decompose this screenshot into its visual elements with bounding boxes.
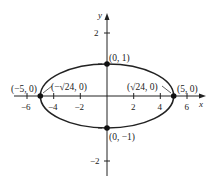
y-axis-arrow-icon [105,13,110,20]
focus-label: (√24, 0) [127,82,158,93]
covertex-point-bottom [104,125,110,131]
vertex-point-right [171,93,177,99]
y-axis-label: y [97,10,102,20]
x-tick-label: 4 [158,102,163,112]
x-axis-arrow-icon [199,94,206,99]
focus-leader-right [162,86,171,93]
point-label: (0, −1) [109,132,135,143]
point-label: (0, 1) [109,53,130,64]
x-tick-label: −6 [21,102,31,112]
x-axis-label: x [198,99,203,109]
y-tick-label: −2 [90,156,100,166]
x-tick-label: −4 [48,102,58,112]
vertex-point-left [38,93,44,99]
point-label: (−5, 0) [11,84,37,95]
focus-label: (−√24, 0) [51,82,87,93]
point-label: (5, 0) [177,84,198,95]
x-tick-label: 6 [185,102,190,112]
ellipse-graph: x y −6 −4 −2 2 4 6 2 −2 (0, 1) (0, −1) (… [0,0,214,182]
x-tick-label: 2 [131,102,136,112]
x-tick-label: −2 [75,102,85,112]
y-tick-label: 2 [94,28,99,38]
